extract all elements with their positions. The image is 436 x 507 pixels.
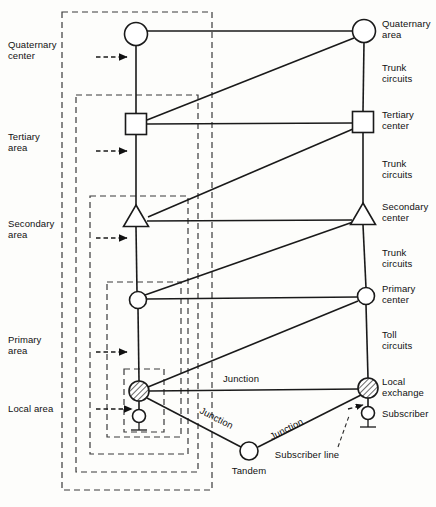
label-toll-circuits-l2: circuits <box>382 340 413 351</box>
subscriber-left-handset-icon <box>133 410 146 423</box>
left-label-column: Quaternary center Tertiary area Secondar… <box>8 39 57 414</box>
subscriber-line-leader-arrow <box>348 405 363 409</box>
vertical-trunk-spines <box>136 42 368 410</box>
label-trunk-circuits-1-l1: Trunk <box>382 62 407 73</box>
label-subscriber: Subscriber <box>382 408 428 419</box>
label-local-exchange-l1: Local <box>382 376 405 387</box>
primary-center-left-node <box>130 292 147 309</box>
label-trunk-circuits-2-l2: circuits <box>382 169 413 180</box>
subscriber-left-telephone <box>131 410 147 431</box>
label-primary-area-l2: area <box>8 345 28 356</box>
inline-labels: Junction Junction Junction Tandem Subscr… <box>198 373 339 476</box>
label-trunk-circuits-3-l2: circuits <box>382 258 413 269</box>
network-nodes <box>124 20 379 461</box>
label-quaternary-area-l1: Quaternary <box>382 18 431 29</box>
right-spine-secondary-primary <box>363 225 366 288</box>
label-quaternary-area-l2: area <box>382 29 402 40</box>
link-primary-primary <box>146 297 358 299</box>
secondary-center-left-node <box>124 205 149 227</box>
tandem-exchange-node <box>240 442 258 460</box>
area-pointer-arrows <box>96 57 132 409</box>
tandem-junction-links <box>147 395 361 447</box>
label-trunk-circuits-2-l1: Trunk <box>382 158 407 169</box>
local-exchange-right-node <box>358 378 378 398</box>
link-primary-left-to-secondary-right <box>145 222 353 295</box>
label-local-area: Local area <box>8 403 54 414</box>
horizontal-peer-links <box>146 31 359 391</box>
label-secondary-area-l1: Secondary <box>8 218 54 229</box>
label-secondary-center-l1: Secondary <box>382 201 428 212</box>
secondary-center-right-node <box>351 203 376 225</box>
quaternary-center-left-node <box>125 23 148 46</box>
link-secondary-left-to-tertiary-right <box>148 129 353 217</box>
link-secondary-secondary <box>147 220 352 221</box>
label-quaternary-center-l2: center <box>8 50 35 61</box>
right-label-column: Quaternary area Trunk circuits Tertiary … <box>382 18 431 419</box>
label-primary-center-l1: Primary <box>382 283 416 294</box>
label-trunk-circuits-3-l1: Trunk <box>382 247 407 258</box>
primary-center-right-node <box>358 288 375 305</box>
quaternary-center-right-node <box>353 20 376 43</box>
diagonal-cross-level-links <box>145 38 358 387</box>
link-tertiary-tertiary <box>147 123 353 124</box>
label-subscriber-line: Subscriber line <box>275 449 339 460</box>
label-secondary-area-l2: area <box>8 229 28 240</box>
label-junction-right-diagonal: Junction <box>268 416 305 442</box>
label-quaternary-center-l1: Quaternary <box>8 39 57 50</box>
label-primary-center-l2: center <box>382 294 409 305</box>
left-spine-primary-local <box>138 309 139 381</box>
label-tertiary-area-l1: Tertiary <box>8 131 40 142</box>
tertiary-center-left-node <box>126 114 147 135</box>
label-toll-circuits-l1: Toll <box>382 329 397 340</box>
subscriber-line-leader <box>338 405 363 447</box>
label-tandem: Tandem <box>232 465 266 476</box>
label-primary-area-l1: Primary <box>8 334 42 345</box>
label-local-exchange-l2: exchange <box>382 387 424 398</box>
label-trunk-circuits-1-l2: circuits <box>382 73 413 84</box>
link-tertiary-left-to-quaternary-right <box>147 38 354 120</box>
left-spine-secondary-primary <box>136 227 137 292</box>
right-spine-quaternary-tertiary <box>363 42 364 111</box>
label-junction-horizontal: Junction <box>223 373 259 384</box>
subscriber-line-leader-path <box>338 416 349 447</box>
tertiary-center-right-node <box>353 112 374 133</box>
subscriber-right-telephone <box>360 407 376 428</box>
label-tertiary-area-l2: area <box>8 142 28 153</box>
label-secondary-center-l2: center <box>382 212 409 223</box>
subscriber-right-handset-icon <box>362 407 375 420</box>
label-tertiary-center-l1: Tertiary <box>382 109 414 120</box>
right-spine-primary-local <box>366 305 368 378</box>
label-tertiary-center-l2: center <box>382 120 409 131</box>
network-hierarchy-figure: Quaternary area Trunk circuits Tertiary … <box>0 0 436 507</box>
diagram-canvas: Quaternary area Trunk circuits Tertiary … <box>0 0 436 507</box>
local-exchange-left-node <box>129 381 149 401</box>
